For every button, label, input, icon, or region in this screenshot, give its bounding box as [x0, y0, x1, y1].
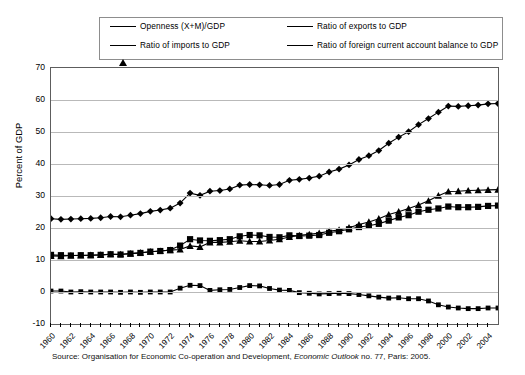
- source-prefix: Source: Organisation for Economic Co-ope…: [52, 352, 294, 361]
- gridline: [51, 228, 498, 229]
- x-axis-tick-mark: [70, 323, 71, 327]
- data-point: [396, 295, 401, 300]
- x-axis-tick-mark: [199, 323, 200, 327]
- data-point: [316, 173, 323, 180]
- x-axis-tick-mark: [437, 323, 438, 327]
- data-point: [58, 216, 65, 223]
- gridline: [51, 292, 498, 293]
- y-axis-tick-label: -10: [19, 319, 45, 327]
- y-axis-tick-label: 70: [19, 63, 45, 71]
- data-point: [226, 186, 233, 193]
- y-axis-tick-label: 0: [19, 287, 45, 295]
- data-point: [435, 109, 442, 116]
- data-point: [386, 296, 391, 301]
- data-point: [495, 203, 498, 209]
- data-point: [51, 215, 54, 222]
- data-point: [127, 212, 134, 219]
- source-suffix: no. 77, Paris: 2005.: [359, 352, 431, 361]
- data-point: [246, 181, 253, 188]
- data-point: [425, 197, 432, 204]
- data-point: [207, 188, 214, 195]
- legend-item-openness: Openness (X+M)/GDP: [110, 22, 250, 31]
- x-axis-tick-mark: [249, 323, 250, 327]
- data-point: [247, 283, 252, 288]
- data-point: [425, 115, 432, 122]
- data-point: [276, 181, 283, 188]
- data-point: [485, 100, 492, 107]
- series-4: [51, 283, 498, 311]
- legend-label-exports: Ratio of exports to GDP: [317, 22, 407, 31]
- data-point: [87, 215, 94, 222]
- x-axis-tick-mark: [139, 323, 140, 327]
- data-point: [476, 306, 481, 311]
- data-point: [147, 208, 154, 215]
- series-line: [51, 190, 498, 257]
- chart-legend: Openness (X+M)/GDP Ratio of exports to G…: [99, 17, 503, 60]
- y-axis-tick-label: 10: [19, 255, 45, 263]
- data-point: [365, 152, 372, 159]
- x-axis-tick-mark: [149, 323, 150, 327]
- diamond-marker-icon: [110, 22, 136, 31]
- y-axis-tick-label: 40: [19, 159, 45, 167]
- x-axis-tick-mark: [288, 323, 289, 327]
- data-point: [326, 169, 333, 176]
- data-point: [415, 121, 422, 128]
- data-point: [267, 286, 272, 291]
- series-line: [51, 285, 498, 308]
- data-point: [257, 284, 262, 289]
- x-axis-tick-mark: [308, 323, 309, 327]
- x-axis-tick-mark: [90, 323, 91, 327]
- x-axis-tick-mark: [467, 323, 468, 327]
- x-axis-tick-mark: [159, 323, 160, 327]
- data-point: [405, 205, 412, 212]
- source-publication: Economic Outlook: [294, 352, 359, 361]
- data-point: [157, 207, 164, 214]
- x-axis-tick-mark: [120, 323, 121, 327]
- data-point: [406, 212, 412, 218]
- gridline: [51, 260, 498, 261]
- square-small-marker-icon: [287, 41, 313, 50]
- data-point: [455, 103, 462, 110]
- data-point: [406, 296, 411, 301]
- data-point: [167, 205, 174, 212]
- x-axis-tick-mark: [408, 323, 409, 327]
- x-axis-tick-mark: [428, 323, 429, 327]
- data-point: [247, 232, 253, 238]
- series-1: [51, 100, 498, 223]
- data-point: [416, 296, 421, 301]
- data-point: [375, 215, 382, 222]
- data-point: [198, 283, 203, 288]
- x-axis-tick-mark: [338, 323, 339, 327]
- x-axis-tick-mark: [447, 323, 448, 327]
- legend-label-balance: Ratio of foreign current account balance…: [317, 41, 498, 50]
- x-axis-tick-mark: [368, 323, 369, 327]
- x-axis-tick-mark: [100, 323, 101, 327]
- data-point: [137, 210, 144, 217]
- y-axis-ticks: 706050403020100-10: [18, 0, 45, 375]
- x-axis-tick-mark: [298, 323, 299, 327]
- data-point: [445, 203, 451, 209]
- data-point: [216, 187, 223, 194]
- data-point: [486, 306, 491, 311]
- legend-item-balance: Ratio of foreign current account balance…: [287, 41, 498, 50]
- series-2: [51, 203, 498, 259]
- legend-item-imports: Ratio of imports to GDP: [110, 41, 250, 50]
- legend-label-imports: Ratio of imports to GDP: [140, 41, 230, 50]
- data-point: [415, 209, 421, 215]
- data-point: [336, 166, 343, 173]
- data-point: [187, 236, 193, 242]
- data-point: [496, 306, 498, 311]
- data-point: [67, 216, 74, 223]
- data-point: [236, 182, 243, 189]
- data-point: [426, 299, 431, 304]
- data-point: [436, 302, 441, 307]
- data-point: [286, 177, 293, 184]
- x-axis-tick-mark: [388, 323, 389, 327]
- x-axis-tick-mark: [358, 323, 359, 327]
- data-point: [465, 204, 471, 210]
- gridline: [51, 100, 498, 101]
- x-axis-tick-mark: [189, 323, 190, 327]
- data-point: [237, 285, 242, 290]
- data-point: [495, 100, 498, 107]
- data-point: [296, 176, 303, 183]
